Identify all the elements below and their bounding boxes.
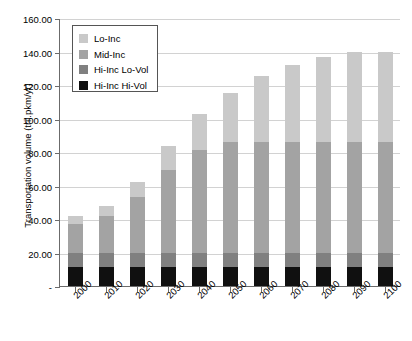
stacked-bar[interactable] — [378, 52, 393, 286]
bar-segment[interactable] — [316, 253, 331, 267]
y-tick-label: 80.00 — [28, 148, 52, 159]
bar-segment[interactable] — [347, 253, 362, 267]
y-tick-label: 120.00 — [23, 81, 52, 92]
y-tick-label: - — [49, 282, 52, 293]
bar-segment[interactable] — [378, 52, 393, 142]
y-tick-label: 60.00 — [28, 181, 52, 192]
stacked-bar[interactable] — [254, 76, 269, 286]
stacked-bar[interactable] — [68, 216, 83, 286]
bar-segment[interactable] — [130, 182, 145, 197]
bar-segment[interactable] — [192, 114, 207, 151]
bar-segment[interactable] — [316, 142, 331, 253]
stacked-bar-chart: Transportation volume (tril.pkm/yr) 160.… — [0, 0, 412, 341]
bar-slot[interactable] — [378, 19, 393, 286]
legend-label: Hi-Inc Hi-Vol — [94, 80, 147, 91]
bar-segment[interactable] — [347, 52, 362, 142]
bar-slot[interactable] — [254, 19, 269, 286]
bar-segment[interactable] — [347, 142, 362, 253]
bar-segment[interactable] — [68, 216, 83, 224]
legend-label: Lo-Inc — [94, 33, 120, 44]
stacked-bar[interactable] — [223, 93, 238, 286]
bar-slot[interactable] — [347, 19, 362, 286]
stacked-bar[interactable] — [161, 146, 176, 286]
bar-segment[interactable] — [285, 65, 300, 142]
bar-segment[interactable] — [316, 57, 331, 142]
y-tick-label: 40.00 — [28, 215, 52, 226]
bar-segment[interactable] — [99, 216, 114, 253]
bar-segment[interactable] — [192, 253, 207, 267]
y-tick-mark — [55, 287, 60, 288]
bar-slot[interactable] — [316, 19, 331, 286]
y-tick-label: 160.00 — [23, 14, 52, 25]
bar-segment[interactable] — [254, 253, 269, 267]
legend-row[interactable]: Lo-Inc — [79, 31, 157, 47]
stacked-bar[interactable] — [285, 65, 300, 286]
bar-segment[interactable] — [223, 93, 238, 142]
bar-segment[interactable] — [378, 142, 393, 253]
bar-slot[interactable] — [192, 19, 207, 286]
bar-segment[interactable] — [192, 150, 207, 252]
bar-slot[interactable] — [223, 19, 238, 286]
y-tick-label: 100.00 — [23, 114, 52, 125]
stacked-bar[interactable] — [192, 114, 207, 287]
legend-swatch — [79, 81, 88, 90]
bar-segment[interactable] — [254, 76, 269, 142]
bar-segment[interactable] — [285, 142, 300, 253]
bar-segment[interactable] — [130, 253, 145, 267]
stacked-bar[interactable] — [130, 182, 145, 286]
legend-swatch — [79, 50, 88, 59]
y-tick-label: 140.00 — [23, 47, 52, 58]
legend-label: Mid-Inc — [94, 49, 125, 60]
stacked-bar[interactable] — [99, 206, 114, 286]
bar-slot[interactable] — [285, 19, 300, 286]
legend-row[interactable]: Hi-Inc Lo-Vol — [79, 62, 157, 78]
legend-row[interactable]: Hi-Inc Hi-Vol — [79, 78, 157, 94]
bar-segment[interactable] — [223, 142, 238, 253]
legend-swatch — [79, 65, 88, 74]
y-tick-label: 20.00 — [28, 248, 52, 259]
bar-segment[interactable] — [68, 224, 83, 252]
legend: Lo-IncMid-IncHi-Inc Lo-VolHi-Inc Hi-Vol — [72, 25, 158, 92]
legend-row[interactable]: Mid-Inc — [79, 47, 157, 63]
bar-segment[interactable] — [130, 197, 145, 252]
bar-segment[interactable] — [99, 206, 114, 216]
bar-segment[interactable] — [68, 253, 83, 267]
legend-label: Hi-Inc Lo-Vol — [94, 64, 148, 75]
bar-segment[interactable] — [99, 253, 114, 267]
bar-segment[interactable] — [378, 253, 393, 267]
bar-segment[interactable] — [254, 142, 269, 253]
bar-slot[interactable] — [161, 19, 176, 286]
bar-segment[interactable] — [223, 253, 238, 267]
legend-swatch — [79, 34, 88, 43]
bar-segment[interactable] — [161, 253, 176, 267]
stacked-bar[interactable] — [316, 57, 331, 286]
stacked-bar[interactable] — [347, 52, 362, 286]
bar-segment[interactable] — [285, 253, 300, 267]
bar-segment[interactable] — [161, 170, 176, 252]
bar-segment[interactable] — [161, 146, 176, 170]
